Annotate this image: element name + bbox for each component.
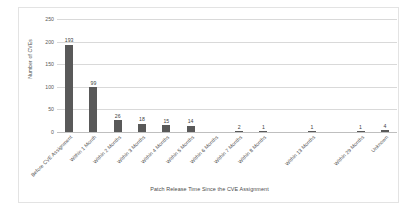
bar-slot: 2 xyxy=(227,19,251,132)
y-axis-tick-label: 0 xyxy=(51,129,54,135)
x-axis-tick: Within 13 Months xyxy=(300,134,324,194)
bar[interactable] xyxy=(114,120,122,132)
x-axis-tick: Within 29 Months xyxy=(348,134,372,194)
y-axis-tick-label: 150 xyxy=(45,61,54,67)
x-axis-tick: Before CVE Assignment xyxy=(57,134,81,194)
bar-slot xyxy=(324,19,348,132)
y-axis-title: Number of CVEs xyxy=(27,19,33,99)
bar-slot: 1 xyxy=(300,19,324,132)
bar-value-label: 18 xyxy=(139,116,145,122)
bar-value-label: 1 xyxy=(359,124,362,130)
bar-value-label: 26 xyxy=(115,113,121,119)
bar-slot: 15 xyxy=(154,19,178,132)
bar[interactable] xyxy=(187,126,195,132)
x-axis-tick: Within 2 Months xyxy=(106,134,130,194)
x-axis-tick: Within 1 Month xyxy=(81,134,105,194)
y-axis-tick-label: 200 xyxy=(45,39,54,45)
bar[interactable] xyxy=(65,45,73,132)
x-axis-tick-label: Unknown xyxy=(370,134,390,154)
x-axis-tick: Within 4 Months xyxy=(154,134,178,194)
bar-slot: 18 xyxy=(130,19,154,132)
bar-slot: 99 xyxy=(81,19,105,132)
x-axis-tick-labels: Before CVE AssignmentWithin 1 MonthWithi… xyxy=(57,134,397,194)
x-axis-tick: Within 5 Months xyxy=(178,134,202,194)
bar-value-label: 4 xyxy=(383,123,386,129)
bar-slot xyxy=(276,19,300,132)
bar[interactable] xyxy=(259,131,267,132)
x-axis-tick: Unknown xyxy=(373,134,397,194)
x-axis-tick-label: Before CVE Assignment xyxy=(30,134,74,178)
y-axis-tick-label: 250 xyxy=(45,16,54,22)
chart-container: Number of CVEs 050100150200250 193992618… xyxy=(18,7,399,203)
x-axis-tick: Within 7 Months xyxy=(227,134,251,194)
bar-value-label: 14 xyxy=(188,118,194,124)
x-axis-tick: Within 6 Months xyxy=(203,134,227,194)
plot-area: 050100150200250 193992618151421114 xyxy=(57,19,397,132)
x-axis-title: Patch Release Time Since the CVE Assignm… xyxy=(19,186,400,192)
bar-value-label: 193 xyxy=(65,37,74,43)
bar-slot: 4 xyxy=(373,19,397,132)
bar-value-label: 99 xyxy=(91,80,97,86)
bar[interactable] xyxy=(381,130,389,132)
y-axis-tick-label: 50 xyxy=(48,106,54,112)
bar[interactable] xyxy=(357,131,365,132)
y-axis-tick-label: 100 xyxy=(45,84,54,90)
bar-value-label: 15 xyxy=(163,118,169,124)
bar[interactable] xyxy=(162,125,170,132)
bar[interactable] xyxy=(308,131,316,132)
bar-slot: 1 xyxy=(251,19,275,132)
bar-slot xyxy=(203,19,227,132)
bar-series: 193992618151421114 xyxy=(57,19,397,132)
bar[interactable] xyxy=(89,87,97,132)
axis-baseline xyxy=(57,132,397,133)
bar-slot: 26 xyxy=(106,19,130,132)
bar-slot: 1 xyxy=(348,19,372,132)
bar-slot: 14 xyxy=(178,19,202,132)
bar[interactable] xyxy=(138,124,146,132)
bar-value-label: 1 xyxy=(311,124,314,130)
bar-value-label: 2 xyxy=(238,124,241,130)
bar-slot: 193 xyxy=(57,19,81,132)
x-axis-tick: Within 8 Months xyxy=(251,134,275,194)
x-axis-tick: Within 3 Months xyxy=(130,134,154,194)
bar[interactable] xyxy=(235,131,243,132)
bar-value-label: 1 xyxy=(262,124,265,130)
